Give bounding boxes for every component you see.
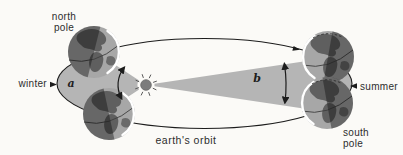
orbit-diagram: north pole winter summer south pole eart… <box>0 0 403 155</box>
north-pole-label-line1: north <box>52 11 76 22</box>
summer-label: summer <box>360 81 398 92</box>
orbit-diagram-canvas: north pole winter summer south pole eart… <box>0 0 403 155</box>
angle-b-label: b <box>253 72 261 85</box>
south-pole-label-line2: pole <box>343 138 363 149</box>
earths-orbit-label: earth's orbit <box>155 134 216 146</box>
angle-a-label: a <box>67 77 74 90</box>
south-pole-label-line1: south <box>343 127 369 138</box>
winter-label: winter <box>18 78 48 89</box>
sun-icon <box>141 80 152 91</box>
north-pole-label-line2: pole <box>54 22 74 33</box>
